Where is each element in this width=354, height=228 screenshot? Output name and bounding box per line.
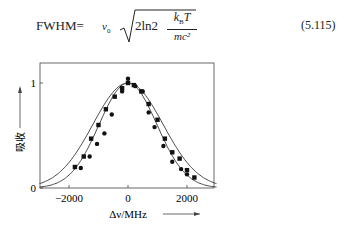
circle-marker — [141, 89, 145, 93]
square-marker — [146, 102, 150, 106]
x-tick-label: 2000 — [176, 192, 199, 204]
wide-fit-curve — [40, 83, 217, 184]
circle-marker — [179, 167, 183, 171]
square-marker — [170, 150, 174, 154]
square-marker — [113, 94, 117, 98]
circle-marker — [146, 110, 150, 114]
square-marker — [89, 136, 93, 140]
square-marker — [104, 107, 108, 111]
circle-marker — [120, 89, 124, 93]
y-axis-arrowhead-icon — [18, 86, 22, 93]
circle-marker — [87, 154, 91, 158]
circle-marker — [152, 125, 156, 129]
circle-marker — [79, 166, 83, 170]
circle-marker — [110, 112, 114, 116]
y-tick-label: 0 — [31, 182, 37, 194]
x-axis-arrowhead-icon — [194, 212, 200, 216]
square-marker — [126, 81, 130, 85]
square-marker — [185, 168, 189, 172]
x-tick-label: 0 — [125, 192, 131, 204]
circle-marker — [126, 77, 130, 81]
square-marker — [155, 118, 159, 122]
square-marker — [82, 154, 86, 158]
square-marker — [192, 175, 196, 179]
fit-curves — [40, 83, 217, 187]
square-marker — [96, 123, 100, 127]
y-tick-label: 1 — [31, 77, 37, 89]
square-marker — [73, 165, 77, 169]
square-marker — [177, 156, 181, 160]
circle-marker — [95, 142, 99, 146]
circle-marker — [102, 131, 106, 135]
circle-marker — [161, 144, 165, 148]
circle-marker — [170, 160, 174, 164]
y-axis-label: 吸收 — [14, 132, 26, 152]
circle-marker — [133, 84, 137, 88]
absorption-chart: −20000200001Δν/MHz吸收 — [0, 0, 354, 228]
square-marker — [163, 136, 167, 140]
narrow-fit-curve — [40, 83, 217, 187]
axis-labels: −20000200001Δν/MHz吸收 — [14, 77, 200, 220]
circle-marker — [185, 172, 189, 176]
x-tick-label: −2000 — [55, 192, 84, 204]
x-axis-label: Δν/MHz — [109, 208, 147, 220]
